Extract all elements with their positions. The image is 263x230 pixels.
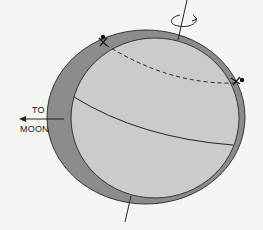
- diagram-canvas: [0, 0, 263, 230]
- rotation-axis: [178, 0, 187, 40]
- tidal-bulge-diagram: TO MOON: [0, 0, 263, 230]
- arrowhead-icon: [19, 116, 26, 122]
- moon-label-line2: MOON: [20, 124, 49, 134]
- moon-label-line1: TO: [32, 105, 45, 115]
- earth-sphere: [71, 38, 239, 198]
